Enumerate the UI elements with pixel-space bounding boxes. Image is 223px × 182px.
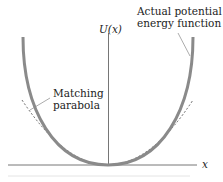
y-axis-label: U(x) (99, 24, 122, 35)
parabola-label-line1: Matching (53, 88, 104, 99)
actual-label-line2: energy function (137, 18, 221, 29)
x-axis-label: x (202, 159, 208, 170)
actual-label-line1: Actual potential (137, 6, 222, 17)
parabola-label-line2: parabola (53, 100, 100, 111)
actual-leader-line (178, 33, 190, 56)
actual-potential-curve (23, 37, 193, 165)
